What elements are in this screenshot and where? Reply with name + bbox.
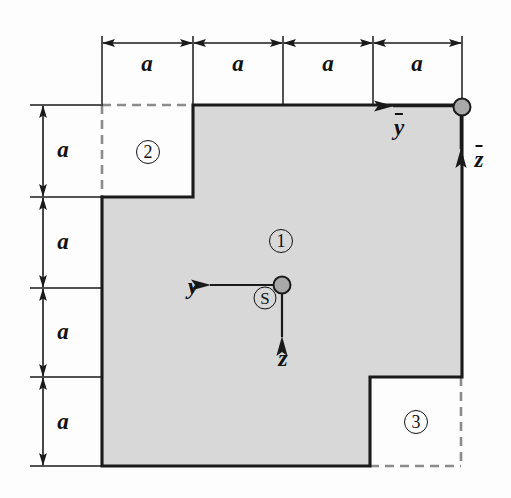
dim-label-top-3: a — [322, 51, 334, 77]
part-number-3: 3 — [404, 410, 428, 434]
cross-section-diagram — [0, 0, 511, 498]
top-extension-lines — [102, 36, 462, 106]
dim-label-left-1: a — [57, 137, 69, 163]
dim-label-left-3: a — [57, 319, 69, 345]
zbar-axis-label: z — [475, 147, 484, 173]
centroid-marker-s: S — [254, 287, 277, 310]
y-axis-label: y — [188, 273, 199, 300]
ybar-axis-label: y — [394, 115, 404, 141]
part-number-1: 1 — [269, 229, 293, 253]
dim-label-top-4: a — [411, 51, 423, 77]
part-number-2: 2 — [136, 140, 160, 164]
dim-label-top-2: a — [232, 51, 244, 77]
centroid-origin-dot — [274, 277, 291, 294]
figure-canvas: a a a a a a a a 1 2 3 S y z y z — [0, 0, 511, 498]
reference-origin-dot — [454, 99, 471, 116]
ybar-axis-label-text: y — [394, 115, 404, 140]
zbar-overline — [475, 145, 482, 147]
z-axis-label: z — [278, 345, 287, 372]
zbar-axis-label-text: z — [475, 147, 484, 172]
ybar-overline — [395, 113, 403, 115]
dim-label-top-1: a — [141, 51, 153, 77]
dim-label-left-2: a — [57, 229, 69, 255]
dim-label-left-4: a — [57, 409, 69, 435]
